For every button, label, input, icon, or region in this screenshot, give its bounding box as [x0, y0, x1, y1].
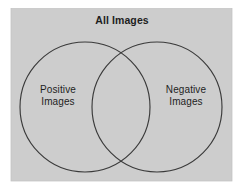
positive-images-label: Positive Images: [20, 84, 96, 108]
universe-title: All Images: [0, 14, 244, 26]
negative-images-label: Negative Images: [148, 84, 224, 108]
venn-diagram-figure: All Images Positive Images Negative Imag…: [0, 0, 244, 190]
